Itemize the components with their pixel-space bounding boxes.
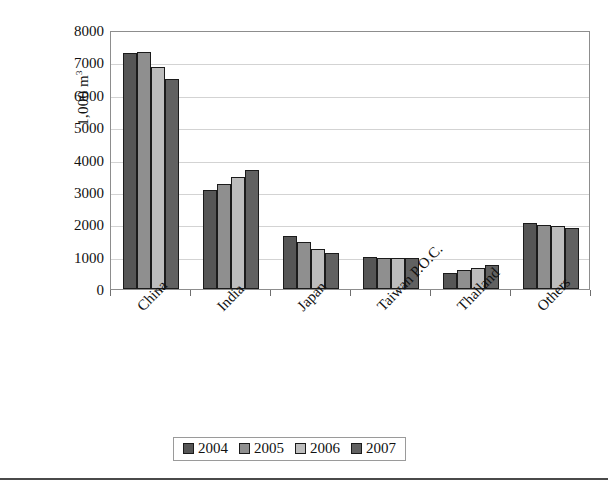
bar[interactable] xyxy=(165,79,179,289)
x-axis-tick-mark xyxy=(430,290,431,296)
x-axis-tick-mark xyxy=(190,290,191,296)
bar[interactable] xyxy=(325,253,339,289)
x-axis-tick-mark xyxy=(510,290,511,296)
legend-item[interactable]: 2007 xyxy=(351,441,396,456)
bottom-divider xyxy=(0,478,608,480)
bar[interactable] xyxy=(537,225,551,289)
bar-group xyxy=(523,223,579,289)
x-axis-tick-mark xyxy=(110,290,111,296)
bar[interactable] xyxy=(377,258,391,289)
bar[interactable] xyxy=(283,236,297,289)
bar-group xyxy=(123,52,179,289)
plot-area xyxy=(110,31,590,290)
y-axis-tick-label: 7000 xyxy=(52,56,104,71)
bar[interactable] xyxy=(203,190,217,289)
x-axis-tick-mark xyxy=(350,290,351,296)
legend-item[interactable]: 2004 xyxy=(183,441,228,456)
y-axis-tick-label: 6000 xyxy=(52,88,104,103)
bar[interactable] xyxy=(151,67,165,289)
y-axis-tick-label: 3000 xyxy=(52,185,104,200)
legend-label: 2005 xyxy=(254,441,284,456)
bar-group xyxy=(283,236,339,289)
legend-swatch-icon xyxy=(239,443,250,454)
x-axis-tick-mark xyxy=(590,290,591,296)
legend-item[interactable]: 2005 xyxy=(239,441,284,456)
y-axis-tick-label: 8000 xyxy=(52,24,104,39)
x-axis-tick-mark xyxy=(270,290,271,296)
bar[interactable] xyxy=(523,223,537,289)
legend-label: 2006 xyxy=(310,441,340,456)
bar-chart-figure: 1,000 m3 8000700060005000400030002000100… xyxy=(0,0,608,495)
legend-swatch-icon xyxy=(295,443,306,454)
legend-swatch-icon xyxy=(351,443,362,454)
bar-group xyxy=(203,170,259,289)
bar[interactable] xyxy=(297,242,311,289)
bar[interactable] xyxy=(217,184,231,289)
chart-legend: 2004200520062007 xyxy=(173,437,406,461)
bar[interactable] xyxy=(245,170,259,289)
y-axis-tick-label: 2000 xyxy=(52,218,104,233)
bar[interactable] xyxy=(231,177,245,289)
legend-label: 2007 xyxy=(366,441,396,456)
bar-series-container xyxy=(111,32,589,289)
legend-swatch-icon xyxy=(183,443,194,454)
y-axis-tick-label: 0 xyxy=(52,283,104,298)
bar[interactable] xyxy=(123,53,137,289)
bar[interactable] xyxy=(363,257,377,289)
y-axis-tick-label: 5000 xyxy=(52,121,104,136)
y-axis-tick-labels: 800070006000500040003000200010000 xyxy=(52,0,104,330)
legend-label: 2004 xyxy=(198,441,228,456)
bar[interactable] xyxy=(137,52,151,289)
y-axis-tick-label: 1000 xyxy=(52,250,104,265)
y-axis-tick-label: 4000 xyxy=(52,153,104,168)
bar[interactable] xyxy=(443,273,457,289)
legend-item[interactable]: 2006 xyxy=(295,441,340,456)
